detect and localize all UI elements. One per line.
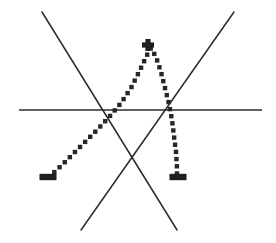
right-minus-marker (170, 174, 187, 180)
diagram-canvas (0, 0, 276, 243)
curve-dot (63, 160, 67, 164)
curve-dot (98, 124, 102, 128)
curve-dot (52, 170, 56, 174)
curve-dot (157, 65, 161, 69)
curve-dot (136, 72, 140, 76)
curve-dot (173, 143, 177, 147)
figure-container (0, 0, 276, 243)
curve-dot (175, 164, 179, 168)
curve-dot (165, 93, 169, 97)
curve-dot (68, 155, 72, 159)
curve-dot (129, 85, 133, 89)
curve-dot (113, 108, 117, 112)
curve-dot (172, 135, 176, 139)
curve-dot (108, 114, 112, 118)
curve-dot (174, 157, 178, 161)
curve-dot (88, 135, 92, 139)
minus-bar (170, 174, 187, 180)
curve-dot (83, 140, 87, 144)
curve-dot (117, 103, 121, 107)
curve-dot (145, 52, 149, 56)
curve-dot (166, 100, 170, 104)
curve-dot (57, 165, 61, 169)
curve-dot (174, 150, 178, 154)
curve-dot (142, 59, 146, 63)
curve-dot (161, 79, 165, 83)
curve-dot (159, 72, 163, 76)
curve-dot (93, 129, 97, 133)
curve-dot (73, 150, 77, 154)
curve-dot (125, 91, 129, 95)
minus-bar (40, 174, 57, 180)
curve-dot (139, 66, 143, 70)
plus-vertical-bar (145, 39, 150, 51)
curve-dot (155, 58, 159, 62)
curve-dot (170, 121, 174, 125)
curve-dot (78, 145, 82, 149)
background (0, 0, 276, 243)
curve-dot (169, 114, 173, 118)
curve-dot (163, 86, 167, 90)
curve-dot (121, 97, 125, 101)
left-minus-marker (40, 174, 57, 180)
curve-dot (103, 119, 107, 123)
curve-dot (152, 52, 156, 56)
curve-dot (171, 128, 175, 132)
curve-dot (168, 107, 172, 111)
curve-dot (132, 78, 136, 82)
